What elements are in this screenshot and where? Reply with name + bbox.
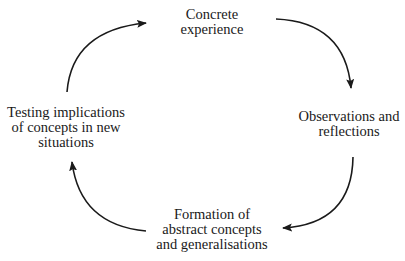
node-observations-reflections: Observations and reflections [298, 109, 399, 139]
node-line: Observations and [298, 109, 399, 124]
node-line: abstract concepts [156, 222, 268, 237]
node-line: Concrete [181, 7, 244, 22]
node-line: of concepts in new [7, 120, 125, 135]
node-formation-abstract-concepts: Formation of abstract concepts and gener… [156, 207, 268, 252]
node-line: reflections [298, 124, 399, 139]
experiential-learning-cycle-diagram: Concrete experience Observations and ref… [0, 0, 405, 261]
node-concrete-experience: Concrete experience [181, 7, 244, 37]
node-line: experience [181, 22, 244, 37]
node-line: situations [7, 135, 125, 150]
arrow-formation-to-testing [72, 162, 146, 231]
node-line: Formation of [156, 207, 268, 222]
arrow-testing-to-concrete [67, 23, 146, 92]
arrow-concrete-to-observations [276, 19, 351, 88]
arrow-observations-to-formation [283, 157, 353, 228]
node-line: and generalisations [156, 237, 268, 252]
node-testing-implications: Testing implications of concepts in new … [7, 105, 125, 150]
node-line: Testing implications [7, 105, 125, 120]
